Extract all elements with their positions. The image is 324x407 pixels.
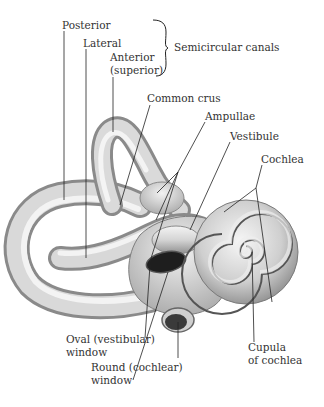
label-anterior-superior: (superior) (110, 64, 163, 76)
label-anterior: Anterior (110, 51, 155, 63)
anterior-canal (101, 127, 184, 214)
label-round-window: Round (cochlear) (91, 361, 183, 373)
label-common-crus: Common crus (147, 92, 221, 104)
label-cupula-2: of cochlea (248, 354, 302, 366)
label-semicircular-canals: Semicircular canals (174, 41, 280, 53)
label-cupula: Cupula (248, 341, 286, 353)
label-cochlea: Cochlea (261, 153, 304, 165)
label-round-window-2: window (91, 374, 132, 386)
label-oval-window-2: window (66, 346, 107, 358)
label-posterior: Posterior (62, 19, 111, 31)
label-oval-window: Oval (vestibular) (66, 333, 155, 345)
label-vestibule: Vestibule (230, 130, 279, 142)
label-lateral: Lateral (83, 37, 121, 49)
label-ampullae: Ampullae (205, 110, 255, 122)
